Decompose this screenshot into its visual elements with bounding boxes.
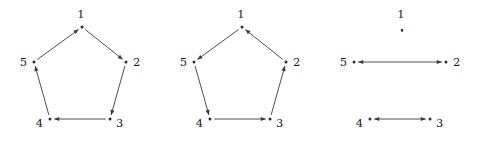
edge-5-to-4 [195,66,209,115]
edge-5-to-1 [37,29,78,59]
node-dot-4 [369,118,372,121]
edge-5-to-2 [358,60,442,64]
node-label-2: 2 [293,55,300,69]
node-dot-3 [109,118,112,121]
arrow-head-icon-1-5 [197,55,202,60]
arrow-head-icon-3-2 [281,66,285,71]
node-dot-1 [81,26,84,29]
arrow-head-icon-4-3 [421,117,426,121]
edge-3-to-4 [54,117,106,121]
node-dot-5 [193,61,196,64]
node-dot-2 [125,61,128,64]
edge-2-to-3 [110,66,124,115]
node-label-4: 4 [356,116,363,130]
node-label-1: 1 [237,7,244,21]
edge-4-to-3 [374,117,426,121]
node-dot-2 [285,61,288,64]
node-label-1: 1 [77,7,84,21]
graph-panel-directed-cycle-forward: 12345 [0,0,161,152]
arrow-head-icon-5-4 [205,110,209,115]
edge-3-to-2 [271,66,285,115]
node-label-3: 3 [116,116,123,130]
arrow-head-icon-5-2 [437,60,442,64]
node-dot-5 [33,61,36,64]
arrow-head-icon-4-3 [261,117,266,121]
arrow-head-icon-2-3 [110,110,114,115]
node-dot-4 [49,118,52,121]
node-label-4: 4 [36,116,43,130]
arrow-head-icon-5-1 [73,29,78,34]
node-label-5: 5 [180,55,187,69]
node-label-4: 4 [196,116,203,130]
node-label-3: 3 [276,116,283,130]
node-dot-1 [241,26,244,29]
edge-1-to-2 [85,30,122,60]
edge-4-to-3 [214,117,266,121]
graph-canvas-panel-right: 12345 [320,0,481,152]
node-dot-3 [429,118,432,121]
node-label-2: 2 [453,55,460,69]
arrow-head-icon-2-5 [358,60,363,64]
node-label-5: 5 [340,55,347,69]
node-dot-5 [353,61,356,64]
graph-canvas-panel-middle: 12345 [160,0,321,152]
graph-panel-two-bidirectional-edges: 12345 [320,0,481,152]
edge-2-to-1 [245,30,282,60]
node-label-2: 2 [133,55,140,69]
node-dot-2 [445,61,448,64]
graph-canvas-panel-left: 12345 [0,0,161,152]
node-dot-3 [269,118,272,121]
node-label-1: 1 [397,7,404,21]
node-label-5: 5 [20,55,27,69]
figure-board: 123451234512345 [0,0,481,152]
edge-1-to-5 [197,29,238,59]
arrow-head-icon-3-4 [374,117,379,121]
arrow-head-icon-4-5 [34,66,38,71]
node-dot-1 [401,29,403,32]
edge-4-to-5 [34,66,48,115]
node-dot-4 [209,118,212,121]
arrow-head-icon-3-4 [54,117,59,121]
node-label-3: 3 [436,116,443,130]
graph-panel-directed-cycle-reverse: 12345 [160,0,321,152]
